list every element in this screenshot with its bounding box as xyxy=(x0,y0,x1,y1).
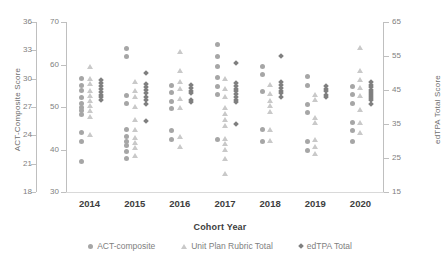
data-point-triangle xyxy=(222,141,228,146)
data-point-triangle xyxy=(357,120,363,125)
data-point-circle xyxy=(260,127,265,132)
data-point-circle xyxy=(215,64,220,69)
data-point-circle xyxy=(79,95,84,100)
data-point-triangle xyxy=(177,86,183,91)
data-point-circle xyxy=(79,76,84,81)
data-point-circle xyxy=(305,74,310,79)
data-point-diamond xyxy=(143,70,149,76)
data-point-triangle xyxy=(222,123,228,128)
triangle-marker-icon xyxy=(181,244,187,249)
x-axis-label-2016: 2016 xyxy=(157,198,203,209)
circle-marker-icon xyxy=(88,244,93,249)
data-point-triangle xyxy=(267,82,273,87)
legend-label-edtpa: edTPA Total xyxy=(307,241,352,251)
data-point-diamond xyxy=(143,118,149,124)
data-point-diamond xyxy=(98,83,104,89)
x-axis-label-2018: 2018 xyxy=(247,198,293,209)
data-point-circle xyxy=(350,84,355,89)
x-axis-label-2020: 2020 xyxy=(337,198,383,209)
y-axis-inner-tick xyxy=(61,150,66,151)
data-point-triangle xyxy=(87,76,93,81)
data-point-circle xyxy=(350,128,355,133)
data-point-triangle xyxy=(357,85,363,90)
data-point-circle xyxy=(124,46,129,51)
y-axis-inner-tick-label: 40 xyxy=(40,146,59,154)
data-point-triangle xyxy=(132,104,138,109)
data-point-circle xyxy=(79,101,84,106)
data-point-circle xyxy=(215,75,220,80)
data-point-diamond xyxy=(369,79,375,85)
data-point-diamond xyxy=(233,94,239,100)
data-point-triangle xyxy=(132,94,138,99)
data-point-diamond xyxy=(233,80,239,86)
data-point-diamond xyxy=(369,95,375,101)
x-axis-label-2014: 2014 xyxy=(67,198,113,209)
data-point-triangle xyxy=(87,114,93,119)
data-point-triangle xyxy=(87,88,93,93)
data-point-triangle xyxy=(87,108,93,113)
data-point-triangle xyxy=(177,49,183,54)
data-point-triangle xyxy=(132,135,138,140)
data-point-circle xyxy=(79,130,84,135)
data-point-triangle xyxy=(312,137,318,142)
y-axis-right-tick-label: 55 xyxy=(392,52,416,60)
x-axis-label-2017: 2017 xyxy=(202,198,248,209)
data-point-circle xyxy=(215,92,220,97)
data-point-circle xyxy=(260,139,265,144)
y-axis-inner-tick xyxy=(61,192,66,193)
y-axis-left-tick-label: 21 xyxy=(0,160,32,168)
data-point-triangle xyxy=(267,138,273,143)
data-point-triangle xyxy=(357,93,363,98)
data-point-diamond xyxy=(369,87,375,93)
diamond-marker-icon xyxy=(298,243,304,249)
legend-item-unit-plan[interactable]: Unit Plan Rubric Total xyxy=(181,241,273,251)
data-point-triangle xyxy=(267,103,273,108)
data-point-circle xyxy=(350,92,355,97)
data-point-circle xyxy=(260,89,265,94)
y-axis-inner-line xyxy=(66,22,67,192)
y-axis-left-tick-label: 30 xyxy=(0,75,32,83)
data-point-diamond xyxy=(98,95,104,101)
chart-legend: ACT-composite Unit Plan Rubric Total edT… xyxy=(0,241,440,251)
data-point-diamond xyxy=(98,80,104,86)
data-point-circle xyxy=(215,84,220,89)
data-point-triangle xyxy=(357,45,363,50)
y-axis-left-tick-label: 18 xyxy=(0,188,32,196)
legend-item-act[interactable]: ACT-composite xyxy=(88,241,155,251)
data-point-triangle xyxy=(222,136,228,141)
data-point-triangle xyxy=(267,127,273,132)
data-point-circle xyxy=(79,159,84,164)
data-point-diamond xyxy=(98,89,104,95)
data-point-triangle xyxy=(177,105,183,110)
data-point-triangle xyxy=(222,86,228,91)
data-point-diamond xyxy=(98,77,104,83)
data-point-diamond xyxy=(233,97,239,103)
data-point-circle xyxy=(305,83,310,88)
data-point-diamond xyxy=(369,93,375,99)
legend-item-edtpa[interactable]: edTPA Total xyxy=(299,241,352,251)
data-point-circle xyxy=(124,101,129,106)
data-point-diamond xyxy=(278,94,284,100)
y-axis-right-tick-label: 45 xyxy=(392,86,416,94)
data-point-circle xyxy=(305,148,310,153)
y-axis-right-line xyxy=(383,22,384,192)
data-point-triangle xyxy=(132,127,138,132)
data-point-diamond xyxy=(188,85,194,91)
data-point-circle xyxy=(124,127,129,132)
y-axis-right-tick xyxy=(384,90,389,91)
data-point-circle xyxy=(79,105,84,110)
data-point-diamond xyxy=(369,97,375,103)
data-point-circle xyxy=(124,149,129,154)
y-axis-right-title: edTPA Total Score xyxy=(433,55,442,165)
data-point-circle xyxy=(79,139,84,144)
data-point-circle xyxy=(169,128,174,133)
data-point-circle xyxy=(124,54,129,59)
y-axis-inner-tick-label: 60 xyxy=(40,61,59,69)
data-point-triangle xyxy=(312,92,318,97)
data-point-triangle xyxy=(177,79,183,84)
data-point-circle xyxy=(79,108,84,113)
data-point-triangle xyxy=(312,115,318,120)
y-axis-right-tick-label: 35 xyxy=(392,120,416,128)
x-axis-label-2015: 2015 xyxy=(112,198,158,209)
data-point-circle xyxy=(305,139,310,144)
